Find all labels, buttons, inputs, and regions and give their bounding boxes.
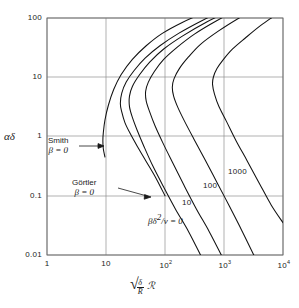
x-tick-label-1000: 103 bbox=[214, 259, 236, 270]
goertler-beta-label: β = 0 bbox=[72, 187, 96, 197]
x-tick-mantissa-1000: 10 bbox=[219, 261, 229, 270]
y-axis-title: αδ bbox=[4, 130, 15, 142]
beta-parameter-annotation: βδ2/ν = 0 bbox=[148, 212, 183, 226]
y-tick-label-0.01: 0.01 bbox=[14, 250, 42, 259]
x-tick-mantissa-10000: 10 bbox=[278, 261, 288, 270]
x-title-denominator: R bbox=[137, 288, 144, 296]
y-tick-label-0.1: 0.1 bbox=[18, 191, 42, 200]
goertler-stability-chart: 100 10 1 0.1 0.01 αδ 1 10 102 103 104 √ … bbox=[0, 0, 299, 308]
beta-param-remainder: /ν = 0 bbox=[161, 216, 183, 226]
x-tick-label-10: 10 bbox=[96, 259, 116, 268]
smith-label: Smith bbox=[48, 136, 68, 145]
x-tick-label-1: 1 bbox=[37, 259, 57, 268]
y-tick-label-10: 10 bbox=[22, 72, 42, 81]
x-tick-exponent-1000: 3 bbox=[228, 259, 231, 265]
curve-label-1000: 1000 bbox=[228, 167, 247, 176]
curve-label-10: 10 bbox=[182, 198, 192, 207]
x-tick-label-100: 102 bbox=[155, 259, 177, 270]
x-tick-exponent-100: 2 bbox=[169, 259, 172, 265]
y-tick-label-100: 100 bbox=[22, 13, 42, 22]
goertler-annotation: Görtler β = 0 bbox=[72, 178, 96, 198]
smith-beta-label: β = 0 bbox=[48, 145, 68, 155]
y-tick-label-1: 1 bbox=[22, 131, 42, 140]
x-tick-label-10000: 104 bbox=[273, 259, 295, 270]
smith-annotation: Smith β = 0 bbox=[48, 136, 68, 156]
x-tick-exponent-10000: 4 bbox=[287, 259, 290, 265]
beta-delta-symbol: βδ bbox=[148, 216, 157, 226]
delta-over-R-fraction: δ R bbox=[137, 279, 144, 296]
curve-label-100: 100 bbox=[203, 181, 217, 190]
x-title-reynolds-symbol: ℛ bbox=[147, 280, 155, 291]
x-tick-mantissa-100: 10 bbox=[160, 261, 170, 270]
goertler-label: Görtler bbox=[72, 178, 96, 187]
x-axis-title: √ δ R ℛ bbox=[130, 276, 155, 295]
